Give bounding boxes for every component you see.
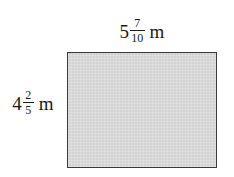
width-fraction: 7 10 <box>130 17 144 44</box>
width-denominator: 10 <box>130 32 144 45</box>
height-numerator: 2 <box>24 89 32 102</box>
height-denominator: 5 <box>24 104 32 117</box>
width-unit: m <box>150 22 165 41</box>
height-fraction: 2 5 <box>23 89 34 116</box>
figure-canvas: 5 7 10 m 4 2 5 m <box>0 0 234 177</box>
width-numerator: 7 <box>133 17 141 30</box>
height-whole-number: 4 <box>12 94 22 113</box>
width-label: 5 7 10 m <box>67 16 217 46</box>
height-label: 4 2 5 m <box>2 86 64 120</box>
shaded-rectangle <box>67 52 217 168</box>
width-whole-number: 5 <box>119 22 129 41</box>
height-unit: m <box>39 94 54 113</box>
